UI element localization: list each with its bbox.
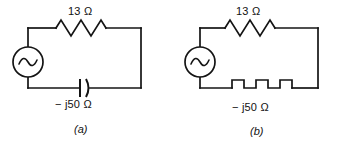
- resistor-symbol-a: [56, 20, 106, 36]
- capacitor-plate-curved-a: [86, 79, 89, 97]
- figure-caption-b: (b): [250, 126, 263, 137]
- capacitor-label-a: − j50 Ω: [55, 99, 92, 110]
- resistor-symbol-b: [225, 20, 275, 36]
- resistor-label-a: 13 Ω: [68, 6, 92, 17]
- circuit-diagram-b: 13 Ω − j50 Ω (b): [174, 0, 348, 149]
- figure-canvas: 13 Ω − j50 Ω (a): [0, 0, 348, 149]
- resistor-label-b: 13 Ω: [236, 6, 260, 17]
- reactance-label-b: − j50 Ω: [232, 102, 269, 113]
- figure-caption-a: (a): [74, 124, 87, 135]
- square-wave-reactance-symbol-b: [232, 80, 292, 88]
- circuit-diagram-a: 13 Ω − j50 Ω (a): [0, 0, 174, 149]
